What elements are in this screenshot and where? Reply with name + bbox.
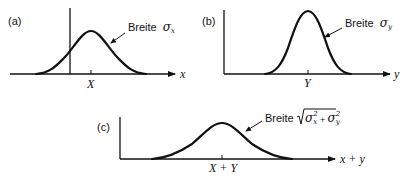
panel-c-label: (c) (97, 121, 110, 133)
panel-b: (b) Y y Breite σy (202, 10, 400, 90)
panel-b-label: (b) (202, 15, 215, 27)
panel-c-width-prefix: Breite (265, 112, 294, 124)
panel-c-width-formula: σx2+σy2 (305, 110, 341, 126)
panel-a-pointer-arrow (111, 33, 125, 43)
panel-c: (c) X + Y x + y Breite σx2+σy2 (97, 109, 365, 175)
panel-b-axis-label: y (393, 67, 400, 81)
panel-c-width-annotation: Breite σx2+σy2 (265, 109, 341, 126)
panel-a-mean-label: X (86, 77, 95, 91)
panel-a-width-annotation: Breite σx (128, 20, 175, 35)
panel-c-mean-label: X + Y (208, 161, 238, 175)
panel-c-gaussian-curve (152, 123, 292, 159)
panel-c-axis-label: x + y (339, 152, 365, 166)
panel-c-pointer-arrow (246, 121, 262, 131)
panel-a: (a) X x Breite σx (8, 8, 186, 91)
panel-b-mean-label: Y (304, 76, 312, 90)
panel-a-gaussian-curve (36, 31, 146, 74)
panel-a-label: (a) (8, 15, 21, 27)
panel-b-pointer-arrow (325, 28, 342, 37)
panel-b-gaussian-curve (265, 11, 351, 74)
gaussian-sum-diagram: (a) X x Breite σx (b) Y y Breite σy (c) (0, 0, 411, 182)
panel-b-width-annotation: Breite σy (345, 16, 393, 31)
panel-a-axis-label: x (179, 67, 186, 81)
